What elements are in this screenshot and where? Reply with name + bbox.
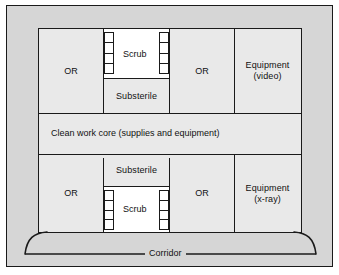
sink-cell — [160, 33, 168, 43]
room-substerile-bottom: Substerile — [103, 155, 170, 186]
sink-cell — [160, 54, 168, 64]
room-or-top-left: OR — [39, 29, 103, 113]
wall-bottom-right-or-left-upper — [169, 158, 170, 232]
zone-label-corridor: Corridor — [145, 248, 186, 258]
floor-plan-diagram: OR Scrub Substerile OR Equipment (video) — [0, 0, 339, 275]
sink-cell — [160, 211, 168, 221]
room-label-or-top-left: OR — [64, 66, 78, 77]
sink-cell — [105, 43, 113, 53]
sink-cell — [105, 54, 113, 64]
room-or-bottom-left: OR — [39, 155, 103, 232]
wall-scrub-top-bottom — [103, 78, 170, 79]
scrub-sink-bank-top-left — [104, 32, 114, 74]
room-label-substerile-top: Substerile — [116, 91, 157, 102]
corridor-arc-left — [25, 232, 47, 254]
room-label-equipment-xray-line1: Equipment — [246, 183, 290, 194]
sink-cell — [105, 64, 113, 73]
room-label-equipment-xray-line2: (x-ray) — [254, 194, 281, 205]
room-equipment-video: Equipment (video) — [234, 29, 301, 113]
zone-label-clean-work-core: Clean work core (supplies and equipment) — [51, 128, 220, 138]
corridor-arc-right — [294, 232, 316, 254]
room-label-scrub-bottom: Scrub — [123, 204, 147, 214]
sink-cell — [105, 220, 113, 229]
sink-cell — [105, 191, 113, 201]
scrub-sink-bank-bottom-left — [104, 190, 114, 230]
room-label-or-bottom-right: OR — [195, 188, 209, 199]
sink-cell — [105, 211, 113, 221]
wall-scrub-bottom-top — [103, 186, 170, 187]
room-or-top-right: OR — [170, 29, 234, 113]
sink-cell — [160, 64, 168, 73]
room-substerile-top: Substerile — [103, 79, 170, 113]
room-equipment-xray: Equipment (x-ray) — [234, 155, 301, 232]
wall-equipment-xray-left — [234, 155, 235, 232]
diagram-outer-frame: OR Scrub Substerile OR Equipment (video) — [6, 5, 333, 267]
room-label-or-bottom-left: OR — [64, 188, 78, 199]
sink-cell — [160, 43, 168, 53]
scrub-sink-bank-top-right — [159, 32, 169, 74]
wall-equipment-video-left — [234, 29, 235, 113]
room-label-substerile-bottom: Substerile — [116, 165, 157, 176]
sink-cell — [160, 201, 168, 211]
room-label-or-top-right: OR — [195, 66, 209, 77]
scrub-sink-bank-bottom-right — [159, 190, 169, 230]
sink-cell — [160, 220, 168, 229]
room-label-equipment-video-line1: Equipment — [246, 60, 290, 71]
sink-cell — [105, 33, 113, 43]
room-or-bottom-right: OR — [170, 155, 234, 232]
room-label-equipment-video-line2: (video) — [253, 71, 281, 82]
wall-top-right-or-left — [169, 29, 170, 113]
sink-cell — [105, 201, 113, 211]
sink-cell — [160, 191, 168, 201]
room-label-scrub-top: Scrub — [123, 49, 147, 59]
